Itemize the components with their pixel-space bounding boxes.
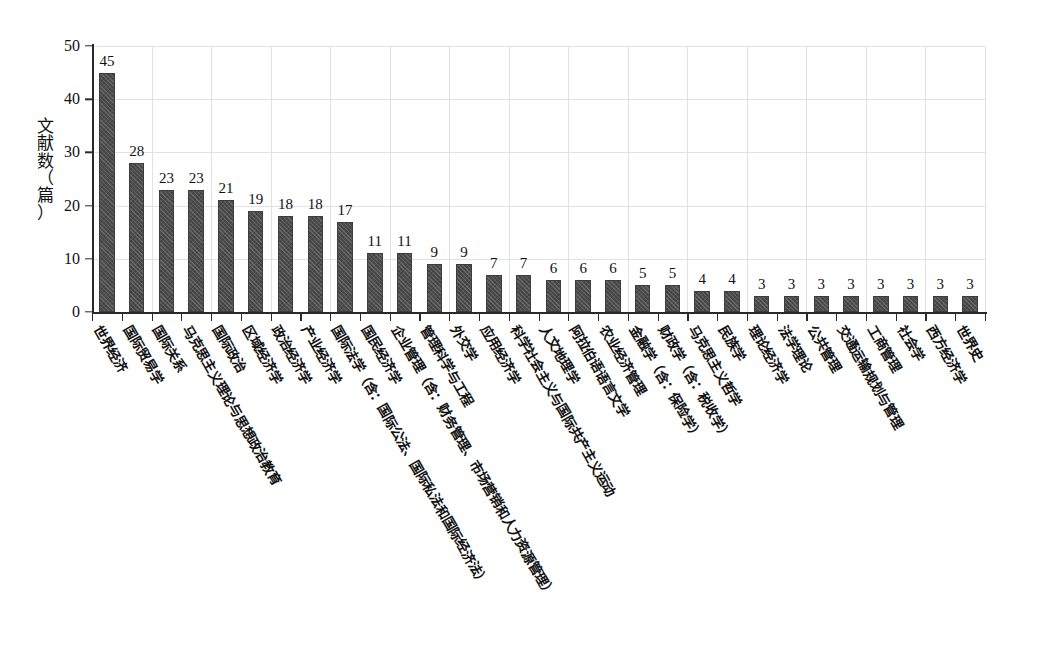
bar (962, 296, 977, 312)
bar (724, 291, 739, 312)
bar (486, 275, 501, 312)
bar (159, 190, 174, 312)
bar-value-label: 3 (847, 276, 855, 293)
bar-value-label: 17 (338, 202, 353, 219)
bar (456, 264, 471, 312)
x-axis-tick-mark (747, 313, 748, 321)
bar-value-label: 4 (698, 271, 706, 288)
gridline-vertical (806, 46, 807, 312)
bar (575, 280, 590, 312)
x-axis-category-label: 外交学 (448, 323, 479, 364)
gridline-vertical (628, 46, 629, 312)
bar-value-label: 3 (937, 276, 945, 293)
bar (605, 280, 620, 312)
bar (248, 211, 263, 312)
gridline-vertical (152, 46, 153, 312)
x-axis-tick-mark (955, 313, 956, 321)
bar-value-label: 6 (550, 260, 558, 277)
x-axis-tick-mark (122, 313, 123, 321)
y-axis-title-char-0: 文 (30, 118, 60, 135)
bar-value-label: 18 (278, 196, 293, 213)
gridline-vertical (390, 46, 391, 312)
x-axis-tick-mark (628, 313, 629, 321)
gridline-vertical (568, 46, 569, 312)
gridline-vertical (925, 46, 926, 312)
x-axis-tick-mark (866, 313, 867, 321)
bar (308, 216, 323, 312)
x-axis-category-label: 民族学 (716, 323, 747, 364)
x-axis-tick-mark (836, 313, 837, 321)
gridline-horizontal (92, 152, 985, 153)
bar (129, 163, 144, 312)
gridline-vertical (687, 46, 688, 312)
bar-value-label: 3 (966, 276, 974, 293)
gridline-vertical (747, 46, 748, 312)
bar-value-label: 19 (248, 191, 263, 208)
x-axis-tick-mark (509, 313, 510, 321)
x-axis-tick-mark (419, 313, 420, 321)
bar-value-label: 21 (218, 180, 233, 197)
x-axis-tick-mark (777, 313, 778, 321)
x-axis-tick-mark (479, 313, 480, 321)
bar (546, 280, 561, 312)
bar (427, 264, 442, 312)
x-axis-tick-mark (181, 313, 182, 321)
bar (814, 296, 829, 312)
gridline-vertical (866, 46, 867, 312)
x-axis-category-label: 世界史 (954, 323, 985, 364)
x-axis-tick-mark (539, 313, 540, 321)
bar-chart: 文 献 数 （ 篇 ） 01020304050 4528232321191818… (0, 0, 1039, 645)
gridline-horizontal (92, 46, 985, 47)
x-axis-tick-mark (568, 313, 569, 321)
x-axis-tick-mark (330, 313, 331, 321)
x-axis-tick-mark (925, 313, 926, 321)
bar-value-label: 18 (308, 196, 323, 213)
bar (218, 200, 233, 312)
bar (933, 296, 948, 312)
x-axis-tick-mark (806, 313, 807, 321)
bar-value-label: 6 (609, 260, 617, 277)
gridline-vertical (449, 46, 450, 312)
y-axis-tick-label: 40 (46, 90, 80, 108)
x-axis-tick-mark (390, 313, 391, 321)
x-axis-tick-mark (271, 313, 272, 321)
bar-value-label: 5 (639, 265, 647, 282)
bar-value-label: 6 (579, 260, 587, 277)
bar (694, 291, 709, 312)
bar-value-label: 28 (129, 143, 144, 160)
gridline-vertical (985, 46, 986, 312)
y-axis-tick-mark (85, 45, 92, 46)
bar-value-label: 3 (818, 276, 826, 293)
bar (635, 285, 650, 312)
y-axis-tick-label: 0 (46, 303, 80, 321)
bar-value-label: 4 (728, 271, 736, 288)
x-axis-tick-mark (300, 313, 301, 321)
y-axis-tick-label: 30 (46, 143, 80, 161)
bar (903, 296, 918, 312)
bar (665, 285, 680, 312)
x-axis-tick-mark (449, 313, 450, 321)
bar (516, 275, 531, 312)
gridline-vertical (509, 46, 510, 312)
gridline-vertical (330, 46, 331, 312)
x-axis-tick-mark (152, 313, 153, 321)
gridline-vertical (271, 46, 272, 312)
gridline-horizontal (92, 99, 985, 100)
x-axis-tick-mark (687, 313, 688, 321)
bar-value-label: 23 (189, 170, 204, 187)
bar (337, 222, 352, 312)
y-axis-tick-label: 10 (46, 250, 80, 268)
bar-value-label: 3 (877, 276, 885, 293)
y-axis-tick-mark (85, 98, 92, 99)
plot-area (92, 46, 985, 312)
y-axis-tick-mark (85, 152, 92, 153)
bar (397, 253, 412, 312)
y-axis-tick-label: 50 (46, 37, 80, 55)
x-axis-tick-mark (241, 313, 242, 321)
bar-value-label: 23 (159, 170, 174, 187)
bar (99, 73, 114, 312)
x-axis-tick-mark (658, 313, 659, 321)
bar (843, 296, 858, 312)
bar-value-label: 3 (907, 276, 915, 293)
bar-value-label: 7 (490, 255, 498, 272)
